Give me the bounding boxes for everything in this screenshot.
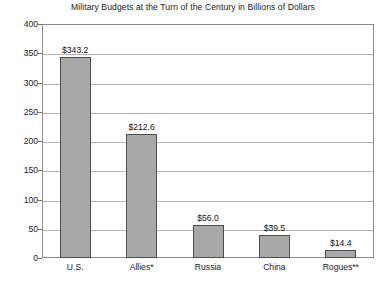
y-axis-tick-label: 0 bbox=[0, 253, 38, 263]
x-axis-tick-label: U.S. bbox=[67, 262, 84, 272]
bar-china bbox=[259, 235, 290, 258]
y-axis-tick-mark bbox=[38, 258, 42, 259]
bar-value-label: $56.0 bbox=[197, 213, 219, 223]
bar-russia bbox=[193, 225, 224, 258]
bar-value-label: $39.5 bbox=[264, 223, 286, 233]
y-axis-tick-label: 350 bbox=[0, 48, 38, 58]
bar-value-label: $212.6 bbox=[128, 122, 154, 132]
x-axis: U.S.Allies*RussiaChinaRogues** bbox=[42, 262, 374, 278]
x-axis-tick-label: China bbox=[263, 262, 285, 272]
bar-u-s bbox=[60, 57, 91, 258]
chart-title: Military Budgets at the Turn of the Cent… bbox=[0, 2, 386, 12]
bars-layer: $343.2$212.6$56.0$39.5$14.4 bbox=[42, 24, 374, 258]
x-axis-tick-label: Allies* bbox=[130, 262, 154, 272]
y-axis-tick-label: 300 bbox=[0, 78, 38, 88]
y-axis-tick-label: 250 bbox=[0, 107, 38, 117]
y-axis-tick-label: 400 bbox=[0, 19, 38, 29]
x-axis-tick-label: Rogues** bbox=[323, 262, 359, 272]
bar-rogues bbox=[325, 250, 356, 258]
y-axis-tick-label: 50 bbox=[0, 224, 38, 234]
y-axis-tick-label: 200 bbox=[0, 136, 38, 146]
y-axis-tick-label: 100 bbox=[0, 195, 38, 205]
y-axis-tick-label: 150 bbox=[0, 165, 38, 175]
bar-chart-figure: Military Budgets at the Turn of the Cent… bbox=[0, 0, 386, 294]
x-axis-tick-label: Russia bbox=[195, 262, 221, 272]
bar-value-label: $343.2 bbox=[62, 45, 88, 55]
bar-allies bbox=[126, 134, 157, 258]
bar-value-label: $14.4 bbox=[330, 238, 352, 248]
y-axis: 050100150200250300350400 bbox=[0, 24, 38, 258]
